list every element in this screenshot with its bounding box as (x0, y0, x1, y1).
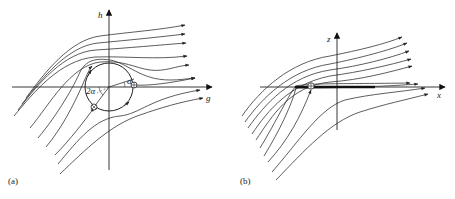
angle-arc-alpha (124, 82, 125, 87)
panel-b-label: (b) (240, 176, 251, 186)
h-axis-label: h (98, 10, 103, 20)
circulation-arrow-icon (88, 70, 91, 76)
streamlines-lower-a (55, 90, 203, 174)
stagnation-point-icon (131, 82, 137, 88)
two-alpha-label: 2α (86, 86, 96, 96)
z-axis-label: z (326, 34, 331, 44)
stagnation-point-icon (308, 83, 314, 89)
streamlines-b (242, 37, 428, 180)
stagnation-point-icon (91, 104, 97, 110)
g-axis-label: g (206, 93, 211, 103)
panel-a-label: (a) (8, 176, 18, 186)
panel-b: z x (b) (240, 33, 445, 186)
circulation-arrow-icon (124, 102, 129, 106)
streamlines-upper-a (14, 25, 195, 147)
figure-canvas: h g α 2α (a) z x (0, 0, 455, 199)
x-axis-label: x (436, 90, 441, 100)
alpha-label: α (127, 76, 132, 86)
radius-2alpha (94, 87, 109, 107)
panel-a: h g α 2α (a) (8, 10, 212, 186)
